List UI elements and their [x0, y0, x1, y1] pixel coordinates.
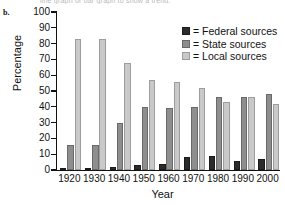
bar [60, 168, 66, 170]
x-tick-label: 2000 [253, 173, 283, 184]
bar [258, 159, 264, 170]
legend-swatch-federal [182, 27, 190, 35]
bar [266, 94, 272, 170]
bar-group [57, 12, 82, 170]
bar-group [156, 12, 181, 170]
y-tick-label: 70 [20, 54, 50, 64]
bar [241, 97, 247, 170]
bar [75, 39, 81, 170]
legend-label: = State sources [193, 38, 266, 50]
bar [216, 97, 222, 170]
y-tick-label: 90 [20, 23, 50, 33]
bar [149, 80, 155, 170]
legend-item: = State sources [182, 38, 277, 51]
cut-off-caption: line graph or bar graph to show a trend. [40, 0, 220, 4]
bar [174, 82, 180, 170]
y-tick-label: 0 [20, 165, 50, 175]
y-tick-label: 10 [20, 149, 50, 159]
y-tick-label: 100 [20, 7, 50, 17]
bar [248, 97, 254, 170]
bar-group [107, 12, 132, 170]
legend-label: = Local sources [193, 50, 267, 62]
legend-item: = Local sources [182, 50, 277, 63]
legend: = Federal sources= State sources= Local … [182, 25, 277, 63]
bar [142, 107, 148, 170]
bar [117, 123, 123, 170]
bar [92, 145, 98, 170]
bar-group [131, 12, 156, 170]
bar [99, 39, 105, 170]
bar [191, 107, 197, 170]
bar [67, 145, 73, 170]
bar [159, 164, 165, 170]
bar [134, 165, 140, 170]
legend-swatch-state [182, 40, 190, 48]
figure: line graph or bar graph to show a trend.… [0, 0, 285, 205]
bar [110, 167, 116, 170]
legend-item: = Federal sources [182, 25, 277, 38]
y-tick-label: 50 [20, 86, 50, 96]
y-tick-label: 80 [20, 39, 50, 49]
bar [223, 102, 229, 170]
y-tick-label: 40 [20, 102, 50, 112]
bar [124, 63, 130, 170]
bar [234, 161, 240, 170]
bar [199, 88, 205, 170]
panel-letter: b. [3, 8, 9, 17]
y-tick-label: 60 [20, 70, 50, 80]
y-tick-label: 30 [20, 118, 50, 128]
bar [273, 104, 279, 170]
legend-label: = Federal sources [193, 25, 277, 37]
bar [166, 108, 172, 170]
legend-swatch-local [182, 52, 190, 60]
bar [85, 168, 91, 170]
bar [209, 156, 215, 170]
bar [184, 157, 190, 170]
y-tick-label: 20 [20, 133, 50, 143]
bar-group [82, 12, 107, 170]
x-axis-label: Year [40, 188, 285, 200]
